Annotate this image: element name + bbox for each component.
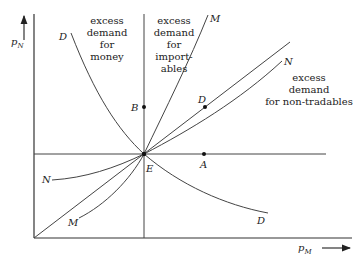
y-axis-label: pN — [11, 36, 24, 50]
x-axis-label: pM — [298, 242, 312, 256]
region-money-label: excess demand for money — [87, 15, 128, 62]
svg-text:excess: excess — [292, 72, 325, 83]
curve-N-label-left: N — [41, 174, 52, 185]
svg-text:ables: ables — [161, 63, 188, 74]
svg-text:excess: excess — [157, 15, 190, 26]
svg-text:money: money — [90, 51, 124, 62]
curve-N-label-right: N — [283, 56, 294, 67]
curve-M-label-top: M — [209, 13, 221, 24]
point-E-label: E — [145, 163, 154, 174]
svg-text:import-: import- — [155, 51, 192, 62]
region-importables-label: excess demand for import- ables — [154, 15, 195, 74]
svg-text:for non-tradables: for non-tradables — [265, 96, 353, 107]
point-B — [142, 105, 146, 109]
svg-text:demand: demand — [154, 27, 195, 38]
point-A-label: A — [199, 159, 207, 170]
svg-text:demand: demand — [289, 84, 330, 95]
svg-text:for: for — [100, 39, 115, 50]
point-D-label: D — [197, 94, 206, 105]
point-B-label: B — [130, 102, 138, 113]
curve-D-label-bottom: D — [256, 215, 265, 226]
point-E — [142, 152, 146, 156]
diagram-canvas: pN pM excess demand for money excess dem… — [0, 0, 364, 261]
svg-text:for: for — [167, 39, 182, 50]
point-A — [202, 152, 206, 156]
curve-D-label-top: D — [58, 31, 67, 42]
region-non-tradables-label: excess demand for non-tradables — [265, 72, 353, 107]
point-D — [203, 105, 207, 109]
svg-text:excess: excess — [90, 15, 123, 26]
curve-M-label-bottom: M — [67, 217, 79, 228]
curve-NN — [52, 61, 282, 180]
svg-text:demand: demand — [87, 27, 128, 38]
